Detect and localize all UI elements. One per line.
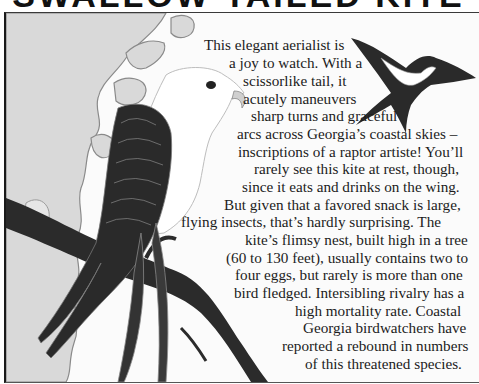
article-line: arcs across Georgia’s coastal skies – (237, 125, 457, 143)
article-line: rarely see this kite at rest, though, (254, 160, 459, 178)
article-line: This elegant aerialist is (204, 36, 344, 54)
article-line: inscriptions of a raptor artiste! You’ll (238, 143, 463, 161)
title-strip: SWALLOW-TAILED KITE (0, 0, 477, 11)
article-line: four eggs, but rarely is more than one (235, 266, 463, 284)
article-line: acutely maneuvers (243, 90, 356, 108)
article-line: (60 to 130 feet), usually contains two t… (226, 249, 468, 267)
article-line: sharp turns and graceful (251, 107, 397, 125)
article-line: high mortality rate. Coastal (295, 302, 461, 320)
article-line: But given that a favored snack is large, (224, 196, 461, 214)
page-title: SWALLOW-TAILED KITE (0, 0, 477, 11)
article-line: since it eats and drinks on the wing. (242, 178, 460, 196)
article-panel: This elegant aerialist is a joy to watch… (4, 12, 479, 383)
article-line: of this threatened species. (305, 355, 462, 373)
article-body: This elegant aerialist is a joy to watch… (6, 13, 479, 382)
article-line: flying insects, that’s hardly surprising… (181, 213, 441, 231)
article-line: reported a rebound in numbers (282, 337, 468, 355)
article-line: scissorlike tail, it (243, 72, 346, 90)
article-line: bird fledged. Intersibling rivalry has a (234, 284, 464, 302)
article-line: a joy to watch. With a (229, 54, 362, 72)
article-line: kite’s flimsy nest, built high in a tree (245, 231, 468, 249)
article-line: Georgia birdwatchers have (303, 319, 466, 337)
